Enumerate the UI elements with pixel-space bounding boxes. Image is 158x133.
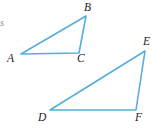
triangle-def-shape <box>50 51 145 110</box>
vertex-label-d: D <box>38 112 46 124</box>
geometry-figure: s A B C D E F <box>0 0 158 133</box>
vertex-label-c: C <box>77 53 85 65</box>
vertex-label-e: E <box>143 36 150 48</box>
vertex-label-a: A <box>7 53 14 65</box>
vertex-label-b: B <box>84 2 91 14</box>
vertex-label-f: F <box>135 112 142 124</box>
triangle-abc-shape <box>21 16 86 54</box>
